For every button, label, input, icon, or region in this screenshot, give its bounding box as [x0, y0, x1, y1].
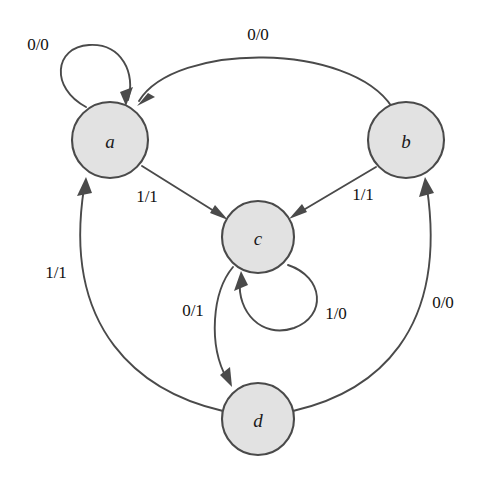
edge-path-b-to-a: [139, 57, 392, 107]
transition-b-to-c: 1/1: [289, 167, 376, 219]
transition-c-self-loop: 1/0: [234, 265, 347, 330]
transition-a-self-loop: 0/0: [27, 35, 133, 108]
loop-path-a-self: [61, 45, 130, 107]
arrowhead-c-self: [234, 271, 248, 291]
state-label-c: c: [254, 228, 263, 249]
edge-label-a-to-c: 1/1: [136, 187, 158, 206]
state-node-c[interactable]: c: [222, 201, 294, 273]
edge-path-d-to-b: [293, 188, 431, 411]
arrowhead-b-to-c: [289, 204, 307, 219]
state-machine-diagram: 0/0 0/0 1/1 1/1 1/0: [0, 0, 480, 481]
transition-c-to-d: 0/1: [182, 267, 233, 387]
state-label-b: b: [401, 131, 411, 152]
state-label-d: d: [253, 410, 263, 431]
edge-label-c-to-d: 0/1: [182, 301, 204, 320]
arrowhead-d-to-b: [419, 177, 434, 197]
state-node-a[interactable]: a: [72, 102, 148, 178]
edge-label-b-to-a: 0/0: [247, 25, 269, 44]
edge-path-d-to-a: [80, 188, 223, 411]
edge-label-d-to-b: 0/0: [432, 293, 454, 312]
edge-label-a-self: 0/0: [27, 35, 49, 54]
fsm-canvas: 0/0 0/0 1/1 1/1 1/0: [0, 0, 480, 481]
edge-label-c-self: 1/0: [325, 304, 347, 323]
transition-b-to-a: 0/0: [137, 25, 392, 108]
arrowhead-d-to-a: [77, 177, 92, 196]
edge-label-d-to-a: 1/1: [45, 263, 67, 282]
edge-path-c-to-d: [215, 267, 233, 379]
loop-path-c-self: [240, 265, 317, 330]
transition-d-to-a: 1/1: [45, 177, 223, 411]
edge-label-b-to-c: 1/1: [352, 185, 374, 204]
state-node-d[interactable]: d: [222, 383, 294, 455]
state-node-b[interactable]: b: [368, 102, 444, 178]
transition-a-to-c: 1/1: [136, 166, 228, 220]
state-label-a: a: [105, 131, 115, 152]
arrowhead-a-to-c: [210, 205, 228, 220]
